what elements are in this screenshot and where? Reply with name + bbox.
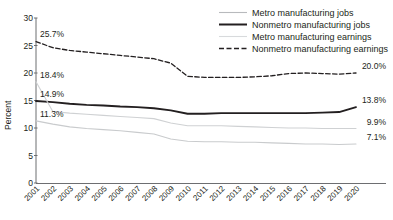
x-tick-label: 2011: [191, 184, 210, 203]
y-tick-label: 15: [24, 96, 34, 106]
x-tick-label: 2010: [174, 184, 193, 203]
x-tick-label: 2004: [73, 184, 92, 203]
x-tick-label: 2006: [107, 184, 126, 203]
x-tick-label: 2002: [39, 184, 58, 203]
series-start-label-1: 14.9%: [40, 89, 65, 99]
series-end-label-0: 7.1%: [367, 132, 387, 142]
x-tick-label: 2012: [208, 184, 227, 203]
chart-container: Percent 30 25 20 15 10 5 0 2001200220032: [0, 0, 393, 220]
x-tick-label: 2017: [292, 184, 311, 203]
y-axis-title: Percent: [3, 100, 13, 130]
x-tick-label: 2005: [90, 184, 109, 203]
legend: Metro manufacturing jobs Nonmetro manufa…: [219, 8, 389, 54]
line-chart: Percent 30 25 20 15 10 5 0 2001200220032: [0, 0, 393, 220]
y-tick-label: 10: [24, 123, 34, 133]
series-layer: [36, 42, 356, 145]
series-line-0: [36, 121, 356, 145]
x-tick-label: 2003: [56, 184, 75, 203]
x-tick-label: 2015: [258, 184, 277, 203]
x-tick-label: 2020: [342, 184, 361, 203]
y-tick-label: 30: [24, 13, 34, 23]
x-tick-label: 2019: [326, 184, 345, 203]
x-axis-tick-labels: 2001200220032004200520062007200820092010…: [22, 184, 361, 203]
x-tick-label: 2008: [140, 184, 159, 203]
y-tick-label: 20: [24, 68, 34, 78]
series-end-label-2: 9.9%: [367, 117, 387, 127]
x-tick-label: 2009: [157, 184, 176, 203]
legend-label: Nonmetro manufacturing earnings: [252, 44, 389, 54]
y-axis-ticks: 30 25 20 15 10 5 0: [24, 13, 34, 188]
x-tick-label: 2001: [22, 184, 41, 203]
series-line-1: [36, 101, 356, 114]
legend-label: Metro manufacturing jobs: [252, 8, 354, 18]
series-start-label-0: 11.3%: [40, 109, 64, 119]
series-end-label-1: 13.8%: [362, 95, 387, 105]
x-tick-label: 2018: [309, 184, 328, 203]
legend-label: Metro manufacturing earnings: [252, 32, 372, 42]
x-tick-label: 2014: [241, 184, 260, 203]
legend-label: Nonmetro manufacturing jobs: [252, 20, 371, 30]
y-tick-label: 5: [28, 151, 33, 161]
x-tick-label: 2007: [124, 184, 143, 203]
series-start-label-2: 18.4%: [40, 70, 65, 80]
y-tick-label: 25: [24, 41, 34, 51]
x-tick-label: 2013: [225, 184, 244, 203]
x-tick-label: 2016: [275, 184, 294, 203]
series-start-label-3: 25.7%: [40, 29, 65, 39]
series-end-label-3: 20.0%: [362, 61, 387, 71]
